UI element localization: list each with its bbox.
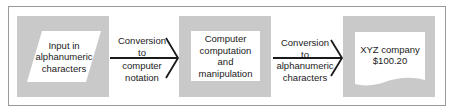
edge-2-label-top: Conversion to (273, 37, 337, 60)
edge-1-line-1: Conversion (112, 35, 172, 47)
edge-2-line-2: to (273, 49, 337, 61)
compute-line-1: Computer (205, 33, 247, 45)
edge-1-line-3: computer (112, 60, 172, 72)
edge-2-label-bottom: alphanumeric characters (273, 60, 337, 83)
edge-1-label-bottom: computer notation (112, 60, 172, 83)
compute-node-text: Computer computation and manipulation (191, 32, 260, 80)
edge-2-line-4: characters (273, 72, 337, 84)
input-line-1: Input in (48, 40, 79, 52)
edge-2-line-3: alphanumeric (273, 60, 337, 72)
input-line-2: alphanumeric (35, 51, 92, 63)
edge-2-line-1: Conversion (273, 37, 337, 49)
input-node-text: Input in alphanumeric characters (30, 35, 98, 79)
edge-1-label-top: Conversion to (112, 35, 172, 58)
edge-1-line-2: to (112, 47, 172, 59)
output-line-1: XYZ company (360, 44, 420, 56)
output-line-2: $100.20 (373, 55, 407, 67)
compute-line-2: computation (200, 45, 252, 57)
output-node-text: XYZ company $100.20 (355, 40, 425, 70)
edge-1-line-4: notation (112, 72, 172, 84)
input-line-3: characters (42, 63, 86, 75)
compute-line-4: manipulation (199, 68, 253, 80)
compute-line-3: and (218, 56, 234, 68)
